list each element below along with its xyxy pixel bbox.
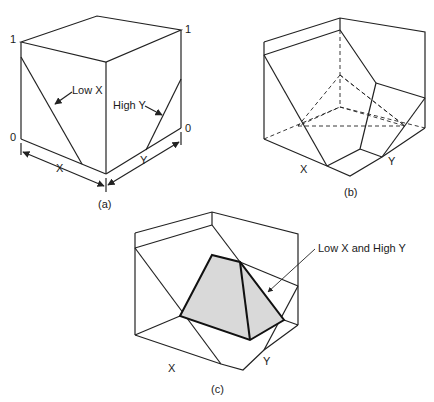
y-axis-label-a: Y [140, 155, 147, 166]
panel-b-cube [264, 18, 425, 176]
caption-a: (a) [98, 199, 111, 210]
low-x-label: Low X [72, 85, 103, 96]
panel-a-cube [21, 16, 181, 192]
caption-b: (b) [344, 187, 357, 198]
axis-label-a-bottom-left: 0 [10, 132, 16, 143]
y-axis-label-c: Y [263, 356, 270, 367]
high-y-label: High Y [113, 100, 146, 111]
panel-c-cube [135, 212, 315, 370]
x-axis-label-c: X [168, 363, 175, 374]
axis-label-a-top-left: 1 [10, 34, 16, 45]
x-axis-label-a: X [56, 163, 63, 174]
low-x-and-high-y-region [180, 255, 284, 340]
caption-c: (c) [211, 384, 224, 395]
y-axis-label-b: Y [388, 156, 395, 167]
x-axis-label-b: X [300, 164, 307, 175]
axis-label-a-top-right: 1 [185, 24, 191, 35]
fuzzy-cube-diagram [0, 0, 434, 402]
region-label-c: Low X and High Y [318, 243, 406, 254]
axis-label-a-bottom-right: 0 [185, 123, 191, 134]
low-x-curve [21, 57, 82, 164]
